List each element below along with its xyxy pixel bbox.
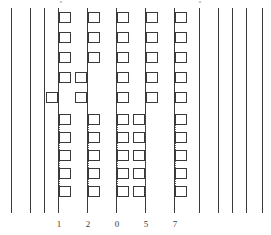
cell-right — [117, 12, 129, 23]
cell-right — [88, 150, 100, 161]
strand-plain — [246, 8, 247, 213]
clipped-top-glyph: • — [54, 0, 68, 4]
cell-right — [175, 32, 187, 43]
clipped-top-glyph: • — [193, 0, 207, 4]
tick-label: 2 — [81, 219, 95, 229]
cell-right — [117, 150, 129, 161]
cell-right — [117, 168, 129, 179]
cell-right — [59, 32, 71, 43]
cell-right — [88, 114, 100, 125]
ladder-diagram: 12057 •• — [0, 0, 271, 235]
strand-plain — [262, 8, 263, 213]
cell-right — [175, 12, 187, 23]
cell-right — [117, 72, 129, 83]
cell-right — [59, 150, 71, 161]
cell-right — [175, 114, 187, 125]
cell-right — [146, 52, 158, 63]
tick-label: 1 — [52, 219, 66, 229]
tick-label: 0 — [110, 219, 124, 229]
strand-plain — [232, 8, 233, 213]
tick-label: 5 — [139, 219, 153, 229]
cell-right — [117, 32, 129, 43]
cell-right — [88, 132, 100, 143]
cell-right — [88, 12, 100, 23]
strand-plain — [199, 8, 200, 213]
cell-right — [146, 12, 158, 23]
cell-right — [117, 92, 129, 103]
strand-plain — [11, 8, 12, 213]
strand-plain — [218, 8, 219, 213]
cell-right — [59, 52, 71, 63]
cell-right — [88, 32, 100, 43]
cell-right — [88, 168, 100, 179]
cell-right — [175, 52, 187, 63]
cell-right — [59, 12, 71, 23]
cell-left — [133, 132, 145, 143]
cell-right — [175, 72, 187, 83]
cell-left — [75, 72, 87, 83]
cell-right — [59, 168, 71, 179]
cell-left — [133, 114, 145, 125]
cell-right — [146, 92, 158, 103]
cell-right — [175, 168, 187, 179]
dotted-connector — [145, 114, 146, 194]
cell-left — [133, 186, 145, 197]
cell-right — [117, 186, 129, 197]
cell-right — [175, 186, 187, 197]
tick-label: 7 — [168, 219, 182, 229]
strand-plain — [30, 8, 31, 213]
cell-left — [46, 92, 58, 103]
cell-right — [59, 186, 71, 197]
cell-right — [59, 132, 71, 143]
cell-right — [146, 32, 158, 43]
cell-right — [117, 132, 129, 143]
cell-left — [75, 92, 87, 103]
cell-right — [146, 72, 158, 83]
cell-left — [133, 168, 145, 179]
cell-right — [88, 52, 100, 63]
cell-right — [59, 72, 71, 83]
cell-left — [133, 150, 145, 161]
cell-right — [117, 52, 129, 63]
cell-right — [175, 132, 187, 143]
cell-right — [117, 114, 129, 125]
strand-plain — [44, 8, 45, 213]
cell-right — [175, 150, 187, 161]
cell-right — [88, 186, 100, 197]
cell-right — [175, 92, 187, 103]
cell-right — [59, 114, 71, 125]
